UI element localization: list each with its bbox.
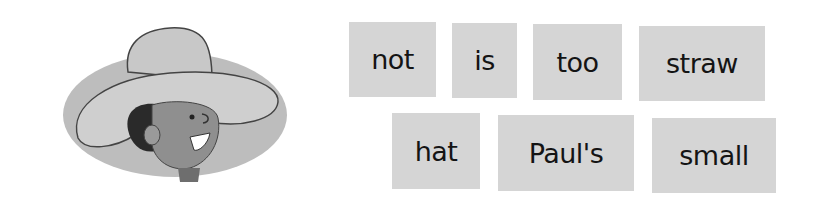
word-card-too[interactable]: too — [533, 24, 622, 100]
word-card-hat[interactable]: hat — [392, 113, 480, 189]
word-label: straw — [666, 48, 738, 79]
word-card-small[interactable]: small — [652, 118, 776, 193]
word-label: hat — [415, 136, 458, 167]
word-card-pauls[interactable]: Paul's — [498, 115, 634, 191]
word-label: too — [556, 47, 598, 78]
word-card-straw[interactable]: straw — [639, 26, 765, 101]
word-label: is — [474, 45, 495, 76]
word-label: Paul's — [529, 138, 604, 169]
boy-with-straw-hat-illustration — [40, 10, 310, 190]
word-card-is[interactable]: is — [452, 23, 517, 98]
word-label: not — [371, 44, 414, 75]
word-label: small — [679, 140, 748, 171]
word-card-not[interactable]: not — [349, 22, 436, 97]
